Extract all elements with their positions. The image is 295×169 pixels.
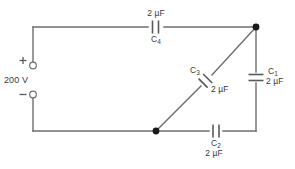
source-voltage-label: 200 V <box>4 75 28 85</box>
source-negative-terminal <box>30 91 37 98</box>
wire-diagonal-upper <box>212 27 256 75</box>
capacitor-c2-value-label: 2 µF <box>205 149 223 159</box>
capacitor-circuit-diagram: 2 µF C4 200 V C1 2 µF C3 2 µF C2 2 µF <box>0 0 295 169</box>
capacitor-c2-symbol <box>213 125 219 138</box>
capacitor-c4-name-label: C4 <box>151 35 161 45</box>
capacitor-c1-value-label: 2 µF <box>266 77 284 87</box>
capacitor-c3-plate-upper <box>203 74 212 83</box>
capacitor-c1-symbol <box>249 75 264 81</box>
junction-dot-bottom-mid <box>153 128 160 135</box>
junction-dot-top-right <box>253 24 260 31</box>
circuit-schematic-svg <box>0 0 295 169</box>
source-positive-terminal <box>30 62 37 69</box>
capacitor-c4-value-label: 2 µF <box>147 9 165 19</box>
capacitor-c3-value-label: 2 µF <box>211 85 229 95</box>
wire-diagonal-lower <box>156 86 201 131</box>
capacitor-c3-name-label: C3 <box>190 66 200 76</box>
plus-sign-icon <box>20 57 27 64</box>
capacitor-c4-symbol <box>153 21 159 34</box>
